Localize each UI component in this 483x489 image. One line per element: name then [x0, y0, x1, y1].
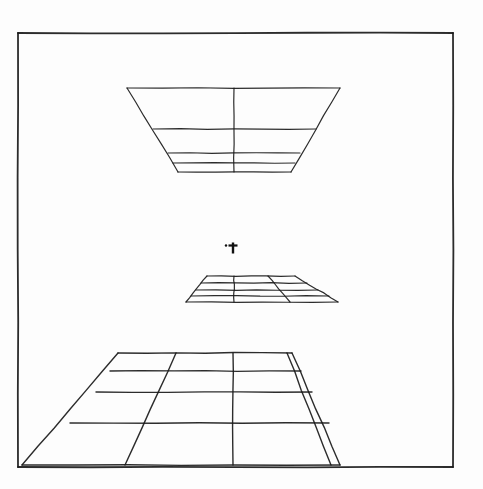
border-left-edge-stroke [18, 33, 19, 467]
floor-plane-horizontal-0 [118, 353, 292, 354]
floor-plane-horizontal-1 [110, 371, 301, 372]
floor-plane-horizontal-4-stroke [22, 465, 340, 466]
figure-canvas: Three horizontal planes in one-point per… [0, 0, 483, 489]
floor-plane-horizontal-1-stroke [110, 371, 301, 372]
floor-plane-horizontal-3-stroke [70, 423, 329, 424]
figure-background [0, 0, 483, 489]
eye-level-plane-horizontal-4 [186, 302, 338, 303]
floor-plane-vertical-1-stroke [233, 353, 234, 465]
perspective-diagram [0, 0, 483, 489]
eye-level-plane-horizontal-0-stroke [207, 276, 295, 277]
eye-level-plane-horizontal-4-stroke [186, 302, 338, 303]
border-bottom-edge [18, 467, 453, 468]
border-bottom-edge-stroke [18, 467, 453, 468]
border-top-edge [18, 33, 453, 34]
eye-level-plane-horizontal-0 [207, 276, 295, 277]
eye-level-plane-horizontal-3-stroke [191, 296, 329, 297]
floor-plane-horizontal-4 [22, 465, 340, 466]
cross-left-dot [225, 244, 227, 246]
eye-level-plane-horizontal-3 [191, 296, 329, 297]
border-left-edge [18, 33, 19, 467]
floor-plane-horizontal-0-stroke [118, 353, 292, 354]
floor-plane-horizontal-3 [70, 423, 329, 424]
border-top-edge-stroke [18, 33, 453, 34]
floor-plane-vertical-1 [233, 353, 234, 465]
